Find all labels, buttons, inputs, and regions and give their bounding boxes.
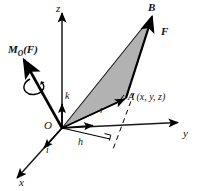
moment-argument: (F) [23,43,38,55]
origin-label: O [44,120,52,131]
moment-arm-label: h [78,137,83,147]
rotation-arc-icon [24,79,44,95]
moment-arm-line [62,128,110,139]
moment-vector-label: MO(F) [8,44,38,58]
x-axis-label: x [19,177,24,188]
moment-base: M [8,43,18,55]
point-b-label: B [148,2,155,13]
moment-plane-triangle [62,16,152,128]
position-vector-label: r [100,105,104,115]
right-angle-marker [105,134,111,141]
z-axis-label: z [56,3,60,14]
unit-vector-k-label: k [65,91,69,101]
y-axis-label: y [183,128,188,139]
force-vector-label: F [161,26,168,37]
point-a-label: A (x, y, z) [128,92,165,102]
vector-moment-diagram: z y x O B F A (x, y, z) r h k i MO(F) [0,0,198,191]
unit-vector-i-label: i [46,145,49,155]
